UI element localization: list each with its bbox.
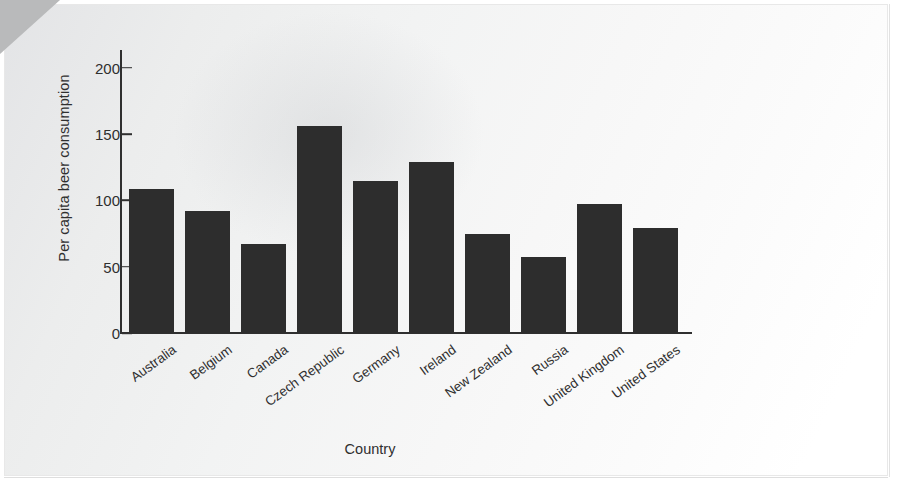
x-axis-title: Country xyxy=(0,441,740,457)
x-tick-label-text: Canada xyxy=(244,342,291,382)
bar xyxy=(297,126,342,333)
y-tick-label: 100 xyxy=(74,192,120,209)
bar xyxy=(465,234,510,333)
y-tick-mark xyxy=(122,67,132,69)
y-tick-mark xyxy=(122,133,132,135)
x-tick-label-text: Belgium xyxy=(187,342,235,383)
y-axis-title: Per capita beer consumption xyxy=(56,38,72,298)
bar-chart: Per capita beer consumption 050100150200… xyxy=(0,0,899,485)
y-axis-line xyxy=(120,50,122,334)
y-tick-label: 50 xyxy=(74,258,120,275)
y-tick-label: 150 xyxy=(74,126,120,143)
x-tick-label-text: Germany xyxy=(350,342,403,387)
scanned-page: Per capita beer consumption 050100150200… xyxy=(0,0,899,485)
x-tick-label-text: Russia xyxy=(529,342,571,378)
y-tick-label: 200 xyxy=(74,59,120,76)
bar xyxy=(577,204,622,333)
bar xyxy=(129,189,174,333)
y-tick-label: 0 xyxy=(74,325,120,342)
x-tick-label-text: Australia xyxy=(128,342,179,385)
x-tick-label-text: Ireland xyxy=(417,342,459,378)
bar xyxy=(409,162,454,333)
